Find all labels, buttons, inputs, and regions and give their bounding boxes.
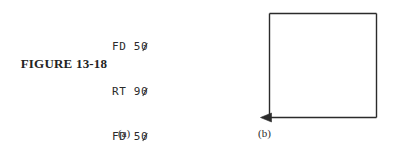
- slashed-zero-glyph: 0: [141, 84, 148, 99]
- direction-arrowhead: [261, 113, 272, 122]
- square-outline: [270, 14, 377, 118]
- slashed-zero-glyph: 0: [141, 39, 148, 54]
- slashed-zero-glyph: 0: [141, 129, 148, 144]
- part-a-sub-label: (a): [118, 127, 130, 139]
- figure-page: FIGURE 13-18 FD 50 RT 90 FD 50 RT 90 FD …: [0, 0, 400, 148]
- turtle-square-diagram: [258, 4, 388, 126]
- code-line: RT 90: [112, 84, 148, 99]
- code-line: FD 50: [112, 39, 148, 54]
- figure-number-label: FIGURE 13-18: [18, 56, 110, 72]
- part-b-sub-label: (b): [258, 127, 271, 139]
